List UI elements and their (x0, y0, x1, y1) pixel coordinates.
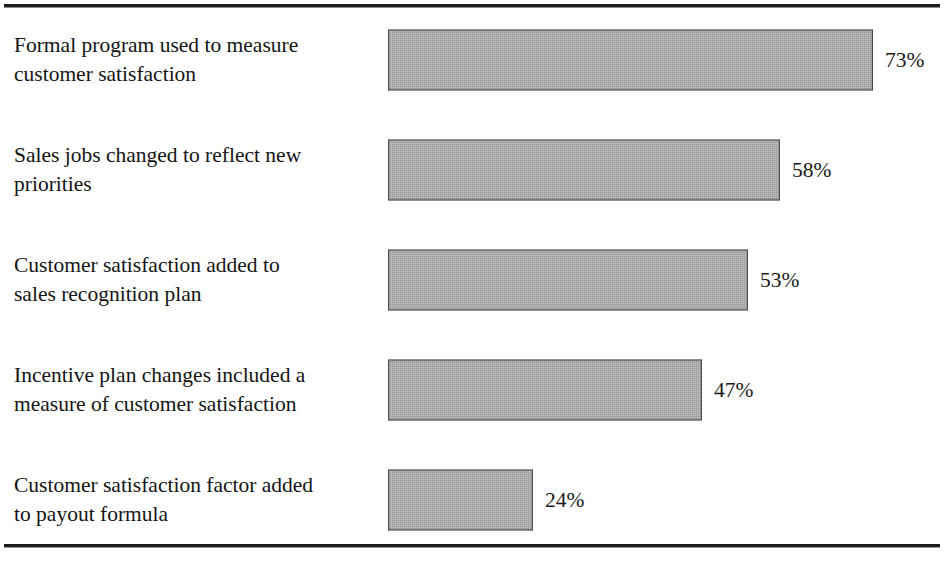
category-label-line1: Incentive plan changes included a (14, 363, 305, 387)
bar-track: 47% (388, 360, 933, 421)
bar-track: 58% (388, 140, 933, 201)
chart-row: Formal program used to measure customer … (0, 10, 948, 110)
chart-row: Incentive plan changes included a measur… (0, 340, 948, 440)
chart-plot-area: Formal program used to measure customer … (0, 10, 948, 540)
chart-row: Customer satisfaction factor added to pa… (0, 450, 948, 550)
category-label-line2: to payout formula (14, 502, 168, 526)
bar-track: 53% (388, 250, 933, 311)
bar-track: 73% (388, 30, 933, 91)
cropped-title-text (0, 0, 948, 2)
category-label-line2: customer satisfaction (14, 62, 196, 86)
category-label-line1: Customer satisfaction factor added (14, 473, 313, 497)
bar (388, 360, 702, 421)
bar-chart-figure: Formal program used to measure customer … (0, 0, 948, 567)
category-label-line2: sales recognition plan (14, 282, 201, 306)
category-label: Customer satisfaction added to sales rec… (14, 251, 366, 309)
chart-row: Customer satisfaction added to sales rec… (0, 230, 948, 330)
category-label-line2: priorities (14, 172, 92, 196)
bar (388, 30, 873, 91)
bar-value-label: 24% (545, 488, 584, 513)
bar-value-label: 58% (792, 158, 831, 183)
bar (388, 140, 780, 201)
bar-track: 24% (388, 470, 933, 531)
bar (388, 250, 748, 311)
category-label-line2: measure of customer satisfaction (14, 392, 296, 416)
category-label: Formal program used to measure customer … (14, 31, 366, 89)
bar-value-label: 53% (760, 268, 799, 293)
bar-value-label: 73% (885, 48, 924, 73)
category-label: Sales jobs changed to reflect new priori… (14, 141, 366, 199)
top-horizontal-rule (4, 4, 940, 7)
bar (388, 470, 533, 531)
category-label: Customer satisfaction factor added to pa… (14, 471, 366, 529)
bottom-horizontal-rule (4, 544, 940, 547)
bar-value-label: 47% (714, 378, 753, 403)
category-label-line1: Customer satisfaction added to (14, 253, 280, 277)
category-label-line1: Formal program used to measure (14, 33, 298, 57)
category-label-line1: Sales jobs changed to reflect new (14, 143, 301, 167)
category-label: Incentive plan changes included a measur… (14, 361, 366, 419)
chart-row: Sales jobs changed to reflect new priori… (0, 120, 948, 220)
